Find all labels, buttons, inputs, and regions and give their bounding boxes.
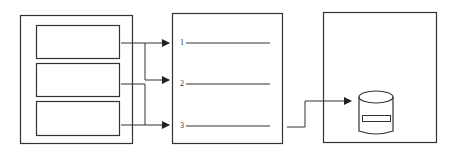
database-cylinder-icon: [359, 91, 393, 134]
right-panel: [324, 13, 437, 143]
line-number-1: 1: [180, 38, 184, 47]
diagram-canvas: 1 2 3: [0, 0, 454, 153]
arrow-to-line-2: [145, 43, 169, 80]
database-label-slot: [363, 116, 391, 122]
slot-3-box: [37, 102, 120, 136]
arrow-to-database: [287, 101, 351, 127]
left-to-middle-connectors: [121, 43, 169, 125]
right-panel-frame: [324, 13, 437, 143]
line-number-2: 2: [180, 79, 184, 88]
middle-panel: 1 2 3: [173, 14, 283, 144]
left-panel-frame: [21, 16, 133, 144]
slot-1-box: [37, 26, 120, 59]
middle-panel-frame: [173, 14, 283, 144]
line-number-3: 3: [180, 121, 184, 130]
left-panel: [21, 16, 133, 144]
slot-2-box: [37, 64, 120, 97]
